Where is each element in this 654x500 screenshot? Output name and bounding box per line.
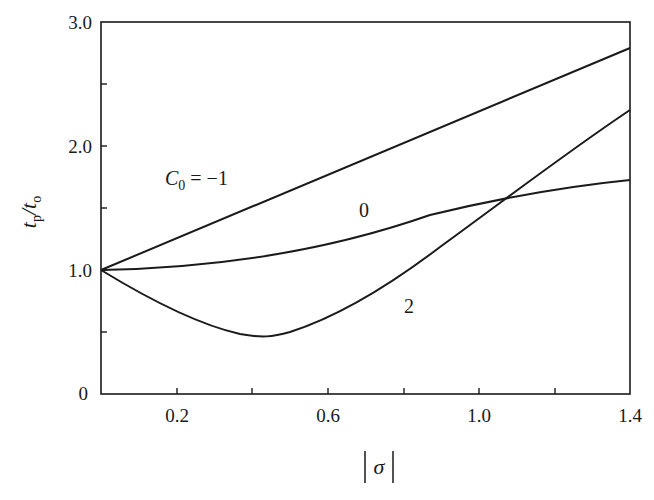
y-axis-ticks [101, 84, 107, 332]
series-c0-0 [101, 180, 630, 270]
series-c0-2 [101, 110, 630, 336]
x-tick-label-1.0: 1.0 [467, 405, 491, 426]
series-c0-minus1 [101, 48, 630, 270]
svg-text:tp/to: tp/to [16, 196, 44, 228]
annotation-c0-0: 0 [359, 199, 369, 221]
y-tick-label-2: 2.0 [68, 136, 92, 157]
y-axis-title: tp/to [16, 196, 44, 228]
annotation-c0-minus1: C0 = −1 [165, 167, 228, 193]
svg-text:σ: σ [374, 454, 386, 479]
y-tick-label-0: 0 [79, 383, 89, 404]
x-axis-ticks [177, 388, 555, 394]
x-tick-label-1.4: 1.4 [618, 405, 642, 426]
chart: 3.0 2.0 1.0 0 0.2 0.6 1.0 1.4 C0 = −1 0 … [0, 0, 654, 500]
x-tick-label-0.2: 0.2 [165, 405, 189, 426]
annotation-c0-2: 2 [404, 295, 414, 317]
x-axis-title: σ [365, 451, 393, 483]
x-tick-label-0.6: 0.6 [316, 405, 340, 426]
y-tick-label-1: 1.0 [68, 260, 92, 281]
y-tick-label-3: 3.0 [68, 12, 92, 33]
